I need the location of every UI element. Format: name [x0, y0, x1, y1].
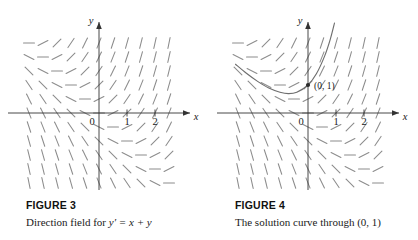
y-axis-label: y [88, 15, 94, 26]
x-tick-label-0: 0 [89, 116, 94, 127]
caption-prefix: The solution curve through [235, 216, 357, 228]
figure-caption-text: Direction field for y′ = x + y [26, 216, 211, 230]
x-tick-label-2: 2 [152, 116, 157, 127]
figure-panel-3: 0 1 2 x y FIGURE 3 Direction field for y… [0, 0, 209, 240]
axis-label-layer-4: 0 1 2 x y (0, 1) [209, 0, 418, 196]
figure-caption-text: The solution curve through (0, 1) [235, 216, 418, 230]
x-axis-label: x [402, 111, 408, 122]
figure-heading: FIGURE 3 [26, 200, 211, 212]
x-tick-label-1: 1 [333, 116, 338, 127]
figure-heading: FIGURE 4 [235, 200, 418, 212]
x-tick-label-2: 2 [361, 116, 366, 127]
caption-equation: y′ = x + y [109, 216, 152, 228]
figure-caption-block-3: FIGURE 3 Direction field for y′ = x + y [26, 200, 211, 229]
initial-condition-label: (0, 1) [314, 81, 335, 92]
y-axis-label: y [297, 15, 303, 26]
x-tick-label-0: 0 [298, 116, 303, 127]
direction-field-plot-3: 0 1 2 x y [0, 0, 209, 196]
direction-field-plot-4: 0 1 2 x y (0, 1) [209, 0, 418, 196]
figure-panel-4: 0 1 2 x y (0, 1) FIGURE 4 The solution c… [209, 0, 418, 240]
caption-point: (0, 1) [357, 216, 381, 228]
axis-label-layer-3: 0 1 2 x y [0, 0, 209, 196]
caption-prefix: Direction field for [26, 216, 109, 228]
x-axis-label: x [193, 111, 199, 122]
figure-caption-block-4: FIGURE 4 The solution curve through (0, … [235, 200, 418, 229]
x-tick-label-1: 1 [124, 116, 129, 127]
